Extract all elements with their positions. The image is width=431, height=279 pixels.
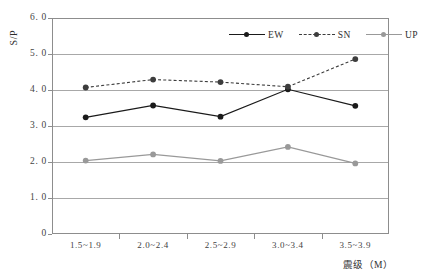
y-tick-mark [48,162,52,163]
y-tick-mark [48,126,52,127]
gridline [53,198,388,199]
y-tick-label: 1. 0 [7,192,47,202]
legend-item-up: UP [366,30,418,40]
legend-swatch-up-icon [366,30,402,40]
chart-legend: EW SN UP [229,30,418,40]
x-tick-mark [254,234,255,239]
y-tick-label: 6. 0 [7,12,47,22]
chart-container: S/P EW SN UP 6. 05. 04. 03. 02. 01. 00 [0,0,431,279]
gridline [53,162,388,163]
y-tick-mark [48,90,52,91]
x-tick-mark [187,234,188,239]
y-tick-mark [48,54,52,55]
legend-item-sn: SN [299,30,351,40]
x-tick-mark [119,234,120,239]
y-tick-label: 0 [7,228,47,238]
y-tick-label: 5. 0 [7,48,47,58]
legend-label-sn: SN [338,30,351,40]
gridline [53,54,388,55]
x-tick-label: 3.5~3.9 [310,240,400,250]
x-tick-mark [322,234,323,239]
legend-label-ew: EW [268,30,284,40]
gridline [53,126,388,127]
y-tick-mark [48,198,52,199]
legend-swatch-sn-icon [299,30,335,40]
legend-item-ew: EW [229,30,284,40]
y-tick-label: 2. 0 [7,156,47,166]
y-tick-mark [48,18,52,19]
gridline [53,90,388,91]
y-axis-title: S/P [8,30,24,45]
y-tick-label: 3. 0 [7,120,47,130]
legend-swatch-ew-icon [229,30,265,40]
y-tick-label: 4. 0 [7,84,47,94]
x-axis-title: 震级（M） [318,257,418,271]
legend-label-up: UP [405,30,418,40]
y-tick-mark [48,234,52,235]
plot-area [52,18,389,234]
